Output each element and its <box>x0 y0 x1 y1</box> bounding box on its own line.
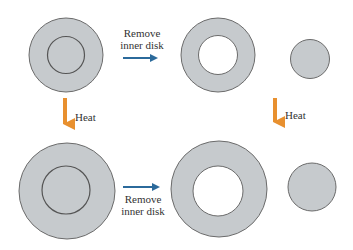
right-heat-label: Heat <box>285 109 306 121</box>
left-heat-label: Heat <box>75 111 96 123</box>
top-full-disk <box>29 18 103 92</box>
top-small-disk <box>291 40 330 79</box>
bottom-small-disk <box>288 163 336 211</box>
bottom-remove-label-line2: inner disk <box>121 205 165 217</box>
bottom-ring <box>171 141 267 237</box>
bottom-remove-label-line1: Remove <box>125 193 162 205</box>
top-remove-label-line1: Remove <box>124 27 161 39</box>
thermal-expansion-diagram: Remove inner disk Heat Heat Remove inner… <box>0 0 353 250</box>
top-ring <box>181 18 255 92</box>
bottom-full-disk <box>19 143 115 239</box>
top-remove-label-line2: inner disk <box>120 39 164 51</box>
